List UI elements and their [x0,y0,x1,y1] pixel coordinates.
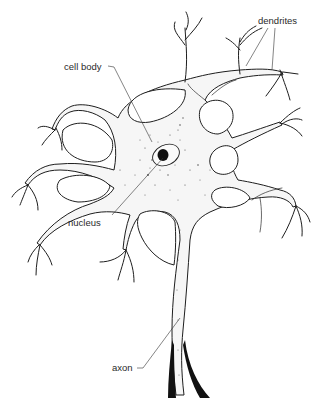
leader-dendrites-1 [272,28,275,70]
axon-sheath-right [183,340,210,398]
label-dendrites: dendrites [258,16,297,26]
neuron-drawing [0,0,313,410]
label-nucleus: nucleus [68,218,101,228]
neuron-diagram: dendrites cell body nucleus axon [0,0,313,410]
leader-dendrites-2 [246,28,268,66]
label-axon: axon [112,363,133,373]
label-cell-body: cell body [64,62,102,72]
cell-body-shape [25,69,296,398]
